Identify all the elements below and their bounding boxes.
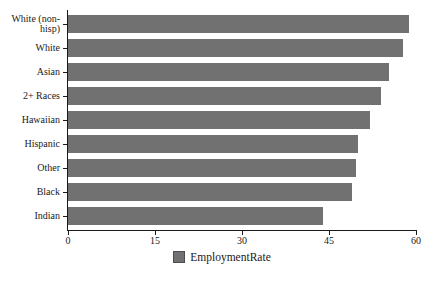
y-axis-category-label: White (non-hisp)	[0, 12, 60, 36]
y-axis-category-label: Hispanic	[0, 132, 60, 156]
y-axis-category-label: Asian	[0, 60, 60, 84]
y-axis-line	[67, 10, 68, 230]
x-axis-tick-label: 30	[227, 235, 257, 246]
employment-rate-bar	[68, 15, 409, 33]
x-axis-tick-label: 0	[53, 235, 83, 246]
employment-rate-bar-chart: White (non-hisp)WhiteAsian2+ RacesHawaii…	[0, 0, 444, 281]
x-axis-tick-label: 45	[314, 235, 344, 246]
employment-rate-bar	[68, 183, 352, 201]
y-axis-category-label: White	[0, 36, 60, 60]
employment-rate-bar	[68, 87, 381, 105]
y-axis-category-label: Indian	[0, 204, 60, 228]
employment-rate-bar	[68, 159, 356, 177]
y-axis-category-label: Other	[0, 156, 60, 180]
employment-rate-bar	[68, 39, 403, 57]
x-axis-tick-label: 60	[401, 235, 431, 246]
employment-rate-bar	[68, 63, 389, 81]
y-axis-category-label: Black	[0, 180, 60, 204]
employment-rate-bar	[68, 207, 323, 225]
legend-label: EmploymentRate	[190, 251, 270, 263]
x-axis-tick-label: 15	[140, 235, 170, 246]
legend: EmploymentRate	[0, 249, 444, 265]
y-axis-category-label: 2+ Races	[0, 84, 60, 108]
employment-rate-bar	[68, 111, 370, 129]
employment-rate-bar	[68, 135, 358, 153]
legend-swatch	[173, 251, 185, 263]
y-axis-category-label: Hawaiian	[0, 108, 60, 132]
